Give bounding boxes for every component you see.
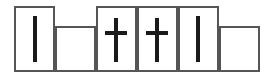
cells-layer [15, 7, 259, 71]
cross-icon-arm [105, 31, 127, 35]
cross-icon-stem [114, 18, 118, 62]
figure-root [0, 0, 275, 81]
cross-icon-stem [155, 18, 159, 62]
vertical-bar-icon [196, 16, 200, 62]
cell-2 [56, 27, 95, 71]
diagram-canvas [0, 0, 275, 81]
cell-6 [220, 27, 259, 71]
cross-icon-arm [146, 31, 168, 35]
vertical-bar-icon [33, 16, 37, 62]
